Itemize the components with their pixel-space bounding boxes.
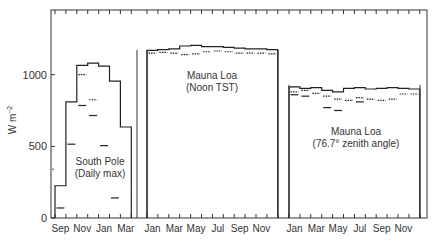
x-tick-label: Nov	[253, 223, 271, 234]
x-tick-label: Sep	[373, 223, 391, 234]
x-tick-label: May	[329, 223, 348, 234]
x-tick-label: Jul	[353, 223, 366, 234]
x-tick-label: Sep	[52, 223, 70, 234]
panel-label-mauna-loa-noon-sub: (Noon TST)	[186, 82, 238, 93]
isolated-point	[52, 168, 54, 170]
x-tick-label: Mar	[166, 223, 184, 234]
step-line	[55, 63, 131, 218]
panel-label-south-pole-sub: (Daily max)	[75, 168, 126, 179]
plot-frame	[51, 10, 427, 218]
panel-label-mauna-loa-zenith-sub: (76.7° zenith angle)	[313, 138, 400, 149]
y-tick-1000: 1000	[23, 69, 47, 81]
x-tick-label: Nov	[395, 223, 413, 234]
step-line	[289, 87, 420, 218]
x-tick-label: Mar	[308, 223, 326, 234]
x-tick-label: Jul	[211, 223, 224, 234]
top-ticks	[55, 10, 420, 14]
x-tick-label: Nov	[73, 223, 91, 234]
chart: 0 500 1000 W m−2 South Pole (Daily max) …	[0, 0, 438, 243]
panel-label-mauna-loa-noon: Mauna Loa	[187, 70, 237, 81]
y-tick-0: 0	[41, 212, 47, 224]
x-tick-label: Jan	[96, 223, 112, 234]
panel-label-mauna-loa-zenith: Mauna Loa	[331, 126, 381, 137]
y-tick-500: 500	[29, 140, 47, 152]
bottom-ticks	[55, 214, 420, 218]
panel-label-south-pole: South Pole	[76, 156, 125, 167]
x-tick-label: Sep	[231, 223, 249, 234]
x-tick-label: Jan	[286, 223, 302, 234]
x-tick-label: Jan	[144, 223, 160, 234]
x-tick-labels: SepNovJanMarJanMarMayJulSepNovJanMarMayJ…	[52, 223, 413, 234]
y-axis: 0 500 1000 W m−2	[6, 69, 55, 224]
y-axis-label: W m−2	[6, 106, 18, 135]
x-tick-label: Mar	[117, 223, 135, 234]
x-tick-label: May	[187, 223, 206, 234]
